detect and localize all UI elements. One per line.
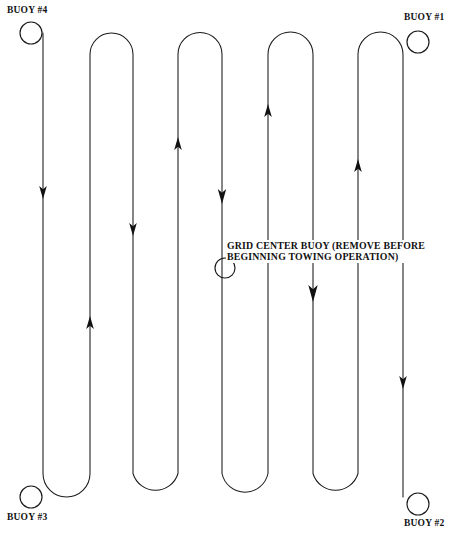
towing-grid-diagram: BUOY #4 BUOY #1 BUOY #3 BUOY #2 GRID CEN… bbox=[0, 0, 453, 541]
buoy-label-1: BUOY #1 bbox=[404, 12, 444, 22]
buoy-circle-3 bbox=[20, 486, 42, 508]
tow-track-path bbox=[43, 32, 403, 497]
buoy-circle-4 bbox=[20, 22, 42, 44]
buoy-label-3: BUOY #3 bbox=[7, 512, 47, 522]
track-svg bbox=[0, 0, 453, 541]
buoy-label-4: BUOY #4 bbox=[7, 5, 47, 15]
buoy-circle-1 bbox=[407, 31, 429, 53]
grid-center-buoy-note-line-1: GRID CENTER BUOY (REMOVE BEFORE bbox=[227, 240, 425, 251]
buoy-circle-2 bbox=[407, 493, 429, 515]
grid-center-buoy-note: GRID CENTER BUOY (REMOVE BEFORE BEGINNIN… bbox=[226, 240, 426, 263]
buoy-label-2: BUOY #2 bbox=[404, 518, 444, 528]
grid-center-buoy-note-line-2: BEGINNING TOWING OPERATION) bbox=[227, 251, 425, 262]
